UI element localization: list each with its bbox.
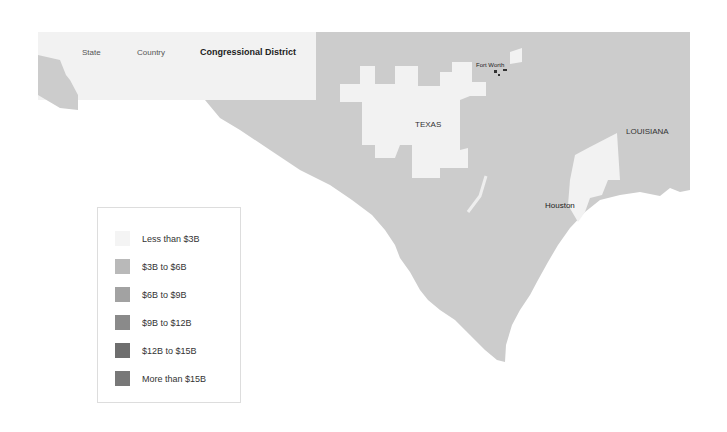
legend-label: $12B to $15B [142,346,197,356]
map-legend: Less than $3B $3B to $6B $6B to $9B $9B … [97,207,241,403]
legend-label: More than $15B [142,374,206,384]
legend-swatch [115,343,130,358]
legend-label: Less than $3B [142,234,200,244]
state-label-louisiana: LOUISIANA [626,127,669,136]
legend-label: $9B to $12B [142,318,192,328]
legend-item: Less than $3B [115,231,200,246]
legend-swatch [115,371,130,386]
legend-label: $6B to $9B [142,290,187,300]
legend-item: $9B to $12B [115,315,192,330]
state-label-texas: TEXAS [415,120,441,129]
legend-item: $3B to $6B [115,259,187,274]
tab-state[interactable]: State [82,48,101,57]
city-label-houston: Houston [545,201,575,210]
tab-congressional-district[interactable]: Congressional District [200,47,296,57]
legend-swatch [115,287,130,302]
legend-item: More than $15B [115,371,206,386]
legend-swatch [115,315,130,330]
legend-item: $6B to $9B [115,287,187,302]
legend-label: $3B to $6B [142,262,187,272]
legend-swatch [115,259,130,274]
city-label-fort-worth: Fort Worth [476,62,504,68]
legend-item: $12B to $15B [115,343,197,358]
legend-swatch [115,231,130,246]
tab-country[interactable]: Country [137,48,165,57]
region-light-north[interactable] [38,32,330,100]
